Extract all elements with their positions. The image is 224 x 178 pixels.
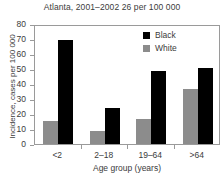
legend-swatch-icon — [143, 45, 150, 52]
x-tick-label: 19–64 — [138, 150, 162, 160]
legend-label: White — [155, 43, 177, 53]
legend-swatch-icon — [143, 32, 150, 39]
chart-figure: Atlanta, 2001–2002 26 per 100 000 Incide… — [0, 0, 224, 178]
bar — [43, 121, 58, 144]
y-tick-label: 20 — [17, 109, 26, 119]
y-tick-label: 30 — [17, 94, 26, 104]
y-tick-label: 10 — [17, 124, 26, 134]
bar — [183, 89, 198, 145]
y-tick-mark — [30, 145, 34, 146]
chart-title: Atlanta, 2001–2002 26 per 100 000 — [0, 2, 224, 12]
plot-area — [34, 25, 220, 145]
y-tick-label: 80 — [17, 19, 26, 29]
x-axis-label: Age group (years) — [33, 163, 221, 173]
x-tick-mark — [174, 145, 175, 149]
x-tick-mark — [127, 145, 128, 149]
x-tick-label: <2 — [52, 150, 62, 160]
bar — [58, 40, 73, 144]
bar — [136, 119, 151, 144]
bar — [105, 108, 120, 144]
chart-legend: BlackWhite — [143, 30, 177, 56]
y-tick-label: 70 — [17, 34, 26, 44]
y-axis-label: Incidence, cases per 100 000 — [8, 22, 17, 152]
y-tick-label: 50 — [17, 64, 26, 74]
x-tick-mark — [81, 145, 82, 149]
y-tick-label: 0 — [21, 139, 26, 149]
legend-item: White — [143, 43, 177, 53]
bar — [198, 68, 213, 145]
y-tick-label: 60 — [17, 49, 26, 59]
x-tick-label: 2–18 — [94, 150, 113, 160]
legend-item: Black — [143, 30, 177, 40]
legend-label: Black — [155, 30, 176, 40]
y-tick-label: 40 — [17, 79, 26, 89]
x-tick-label: >64 — [190, 150, 204, 160]
bar — [151, 71, 166, 144]
bar — [90, 131, 105, 144]
